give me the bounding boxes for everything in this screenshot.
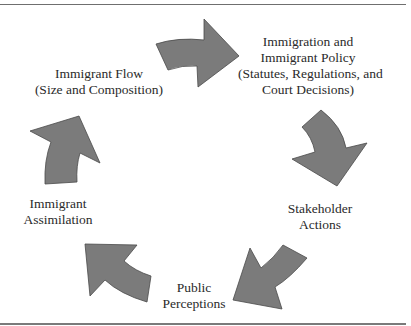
node-text-line: Actions	[280, 217, 360, 233]
node-text-line: Immigrant Policy	[238, 50, 378, 66]
node-text-line: Stakeholder	[280, 201, 360, 217]
node-text-line: Court Decisions)	[238, 82, 378, 98]
node-stakeholder-actions: Stakeholder Actions	[280, 201, 360, 233]
arrow-assimilation-to-flow-icon	[30, 116, 100, 184]
node-immigrant-assimilation: Immigrant Assimilation	[18, 196, 98, 228]
node-immigrant-flow: Immigrant Flow (Size and Composition)	[34, 66, 164, 98]
node-text-line: Immigration and	[238, 34, 378, 50]
node-text-line: Assimilation	[18, 212, 98, 228]
node-public-perceptions: Public Perceptions	[154, 280, 234, 312]
arrow-perceptions-to-assimilation-icon	[85, 244, 151, 302]
node-text-line: Public	[154, 280, 234, 296]
arrow-flow-to-policy-icon	[156, 19, 239, 87]
arrow-policy-to-stakeholder-icon	[292, 110, 367, 186]
arrow-stakeholder-to-perceptions-icon	[233, 245, 307, 309]
node-immigration-policy: Immigration and Immigrant Policy (Statut…	[238, 34, 378, 98]
node-text-line: Perceptions	[154, 296, 234, 312]
node-text-line: (Size and Composition)	[34, 82, 164, 98]
node-text-line: Immigrant Flow	[34, 66, 164, 82]
node-text-line: (Statutes, Regulations, and	[238, 66, 378, 82]
node-text-line: Immigrant	[18, 196, 98, 212]
